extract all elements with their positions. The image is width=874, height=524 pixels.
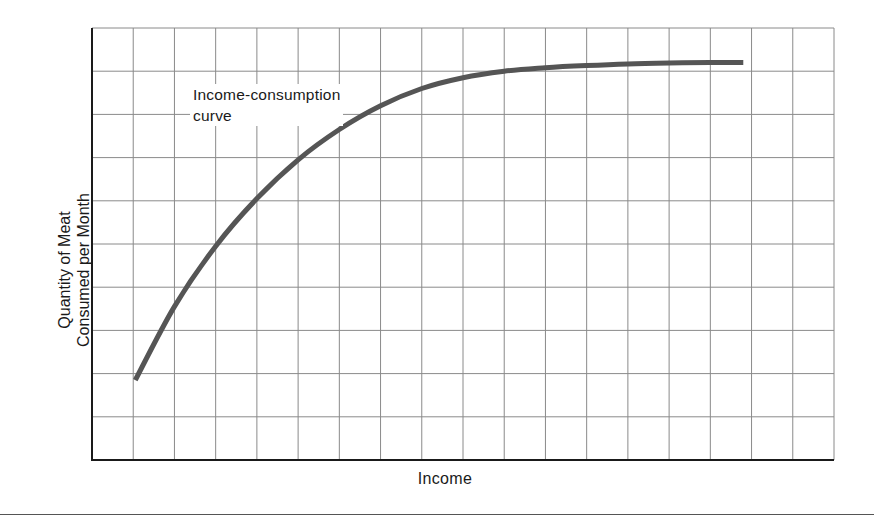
bottom-divider [0,514,874,515]
chart-canvas [0,0,874,524]
x-axis-label: Income [400,470,490,488]
annotation-line-2: curve [193,105,340,126]
y-axis-label-line-2: Consumed per Month [74,193,93,347]
y-axis-label: Quantity of Meat Consumed per Month [44,140,104,400]
annotation-line-1: Income-consumption [193,84,340,105]
curve-annotation: Income-consumption curve [190,84,343,126]
y-axis-label-line-1: Quantity of Meat [55,193,74,347]
